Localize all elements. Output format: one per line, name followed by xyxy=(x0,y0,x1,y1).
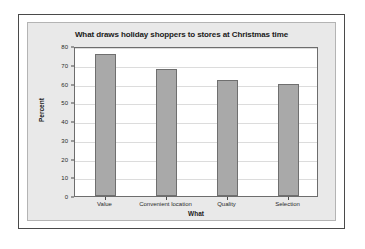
x-tick-label: Value xyxy=(97,201,112,207)
bar-quality xyxy=(217,80,239,196)
x-tick-mark xyxy=(288,197,289,200)
chart-outer-frame: What draws holiday shoppers to stores at… xyxy=(18,14,345,229)
y-tick-label: 10 xyxy=(46,175,68,181)
y-tick-mark xyxy=(71,178,74,179)
x-tick-mark xyxy=(105,197,106,200)
y-tick-label: 50 xyxy=(46,100,68,106)
y-tick-label: 20 xyxy=(46,157,68,163)
y-tick-label: 80 xyxy=(46,44,68,50)
x-tick-label: Convenient location xyxy=(139,201,192,207)
x-tick-label: Selection xyxy=(275,201,300,207)
y-tick-label: 30 xyxy=(46,138,68,144)
y-tick-mark xyxy=(71,47,74,48)
x-tick-label: Quality xyxy=(217,201,236,207)
y-tick-mark xyxy=(71,140,74,141)
y-tick-label: 0 xyxy=(46,194,68,200)
x-tick-mark xyxy=(227,197,228,200)
x-tick-mark xyxy=(166,197,167,200)
bar-selection xyxy=(278,84,300,197)
y-tick-label: 60 xyxy=(46,82,68,88)
bar-value xyxy=(95,54,117,197)
y-tick-label: 40 xyxy=(46,119,68,125)
y-tick-label: 70 xyxy=(46,63,68,69)
y-tick-mark xyxy=(71,84,74,85)
bar-convenient-location xyxy=(156,69,178,197)
y-tick-mark xyxy=(71,197,74,198)
chart-panel: What draws holiday shoppers to stores at… xyxy=(27,22,336,221)
plot-area xyxy=(74,47,318,197)
y-tick-mark xyxy=(71,103,74,104)
gridline xyxy=(75,48,317,49)
chart-title: What draws holiday shoppers to stores at… xyxy=(28,30,335,39)
y-tick-mark xyxy=(71,122,74,123)
y-tick-mark xyxy=(71,159,74,160)
y-axis-label: Percent xyxy=(38,98,45,122)
x-axis-label: What xyxy=(74,210,318,217)
y-tick-mark xyxy=(71,65,74,66)
x-axis: ValueConvenient locationQualitySelection xyxy=(74,197,318,211)
